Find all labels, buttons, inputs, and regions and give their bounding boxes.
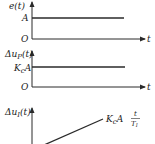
- ramp-label: KcA: [105, 114, 124, 126]
- y-axis-label: ΔuI(t): [4, 107, 31, 119]
- ramp-label-denominator: TI: [131, 120, 139, 128]
- panel-error-step: e(t) A O t: [9, 1, 151, 44]
- ramp-label-numerator: t: [134, 110, 137, 118]
- level-label: KcA: [13, 63, 32, 75]
- ramp-line: [44, 119, 103, 144]
- level-label: A: [21, 13, 29, 23]
- y-axis-label: ΔuP(t): [4, 49, 33, 61]
- x-axis-label: t: [147, 34, 151, 44]
- y-axis-label: e(t): [9, 1, 25, 11]
- x-axis-label: t: [147, 82, 151, 92]
- origin-label: O: [21, 34, 29, 44]
- panel-proportional-response: ΔuP(t) KcA O t: [4, 49, 151, 92]
- panel-integral-response: ΔuI(t) KcA t TI: [4, 107, 140, 144]
- pi-controller-response-diagram: e(t) A O t ΔuP(t) KcA O t ΔuI(t) KcA t T…: [0, 0, 155, 144]
- origin-label: O: [21, 82, 29, 92]
